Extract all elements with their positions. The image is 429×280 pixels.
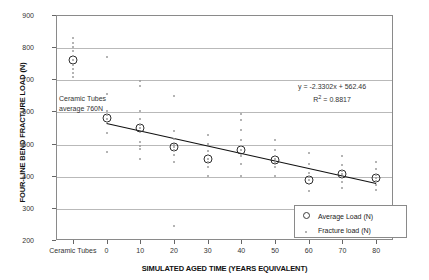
y-axis-tick-mark	[52, 240, 56, 241]
fracture-load-point	[173, 130, 175, 132]
fracture-load-point	[207, 175, 209, 177]
fracture-load-point	[106, 151, 108, 153]
legend-label-fracture-load: Fracture load (N)	[318, 227, 371, 234]
fracture-load-point	[240, 145, 242, 147]
fracture-load-point	[207, 158, 209, 160]
fracture-load-point	[308, 172, 310, 174]
open-circle-icon	[301, 212, 311, 220]
fracture-load-point	[375, 177, 377, 179]
y-axis-tick-label: 700	[0, 76, 34, 83]
fracture-load-point	[274, 166, 276, 168]
x-axis-tick-label: 70	[339, 246, 347, 255]
fracture-load-point	[308, 179, 310, 181]
fracture-load-point	[72, 59, 74, 61]
legend-item-average-load[interactable]: Average Load (N)	[301, 209, 373, 223]
fracture-load-point	[240, 129, 242, 131]
fracture-load-point	[106, 132, 108, 134]
y-axis-tick-label: 300	[0, 204, 34, 211]
legend-label-average-load: Average Load (N)	[318, 213, 373, 220]
fracture-load-point	[139, 124, 141, 126]
x-axis-tick-mark	[275, 240, 276, 244]
fracture-load-point	[341, 155, 343, 157]
fracture-load-point	[207, 161, 209, 163]
fracture-load-point	[72, 64, 74, 66]
y-axis-title: FOUR-LINE BEND FRACTURE LOAD (N)	[18, 48, 27, 218]
x-axis-tick-label: 80	[372, 246, 380, 255]
dot-icon	[301, 227, 311, 234]
x-axis-tick-mark	[376, 240, 377, 244]
x-axis-tick-label: 50	[271, 246, 279, 255]
x-axis-tick-label: 0	[105, 246, 109, 255]
fracture-load-point	[308, 190, 310, 192]
fracture-load-point	[173, 154, 175, 156]
fracture-load-point	[274, 155, 276, 157]
fracture-load-point	[72, 46, 74, 48]
y-axis-tick-label: 400	[0, 172, 34, 179]
x-axis-tick-label: Ceramic Tubes	[49, 246, 96, 255]
y-axis-tick-mark	[52, 176, 56, 177]
fracture-load-point	[139, 80, 141, 82]
fracture-load-point	[375, 168, 377, 170]
fracture-load-point	[173, 161, 175, 163]
fracture-load-point	[375, 174, 377, 176]
fracture-load-point	[139, 158, 141, 160]
fracture-load-point	[375, 189, 377, 191]
fracture-load-point	[341, 173, 343, 175]
fracture-load-point	[308, 183, 310, 185]
y-axis-tick-mark	[52, 15, 56, 16]
fracture-load-point	[341, 181, 343, 183]
fracture-load-point	[308, 176, 310, 178]
x-axis-tick-mark	[73, 240, 74, 244]
legend-item-fracture-load[interactable]: Fracture load (N)	[301, 223, 371, 237]
fracture-load-point	[106, 114, 108, 116]
fracture-load-point	[240, 119, 242, 121]
x-axis-tick-label: 30	[204, 246, 212, 255]
fracture-load-point	[207, 154, 209, 156]
r-value: = 0.8817	[321, 96, 350, 103]
fracture-load-point	[240, 139, 242, 141]
y-axis-tick-label: 800	[0, 44, 34, 51]
x-axis-tick-mark	[107, 240, 108, 244]
fracture-load-point	[173, 138, 175, 140]
fracture-load-point	[308, 152, 310, 154]
x-axis-tick-mark	[174, 240, 175, 244]
fracture-load-point	[139, 118, 141, 120]
y-axis-tick-mark	[52, 208, 56, 209]
fracture-load-point	[72, 55, 74, 57]
fracture-load-point	[274, 161, 276, 163]
fracture-load-point	[274, 149, 276, 151]
fracture-load-point	[72, 37, 74, 39]
fracture-load-point	[72, 76, 74, 78]
fracture-load-point	[207, 134, 209, 136]
chart-container: FOUR-LINE BEND FRACTURE LOAD (N) 9008007…	[0, 0, 429, 280]
fracture-load-point	[139, 141, 141, 143]
fracture-load-point	[72, 68, 74, 70]
x-axis-title: SIMULATED AGED TIME (YEARS EQUIVALENT)	[56, 264, 393, 273]
fracture-load-point	[106, 56, 108, 58]
fracture-load-point	[207, 143, 209, 145]
y-axis-tick-mark	[52, 111, 56, 112]
gridline	[57, 145, 392, 146]
fracture-load-point	[240, 149, 242, 151]
y-axis-tick-mark	[52, 79, 56, 80]
fracture-load-point	[173, 225, 175, 227]
fracture-load-point	[139, 85, 141, 87]
fracture-load-point	[72, 72, 74, 74]
fracture-load-point	[173, 95, 175, 97]
y-axis-tick-mark	[52, 47, 56, 48]
gridline	[57, 48, 392, 49]
fracture-load-point	[375, 180, 377, 182]
fracture-load-point	[72, 42, 74, 44]
x-axis-tick-label: 10	[136, 246, 144, 255]
y-axis-tick-label: 600	[0, 108, 34, 115]
fracture-load-point	[308, 163, 310, 165]
ceramic-tubes-annotation: Ceramic Tubes average 760N	[59, 94, 106, 114]
fracture-load-point	[139, 110, 141, 112]
fracture-load-point	[139, 127, 141, 129]
fracture-load-point	[375, 184, 377, 186]
r-squared-line: R2 = 0.8817	[313, 96, 351, 103]
y-axis-tick-mark	[52, 144, 56, 145]
fracture-load-point	[139, 145, 141, 147]
fracture-load-point	[274, 158, 276, 160]
fracture-load-point	[375, 161, 377, 163]
